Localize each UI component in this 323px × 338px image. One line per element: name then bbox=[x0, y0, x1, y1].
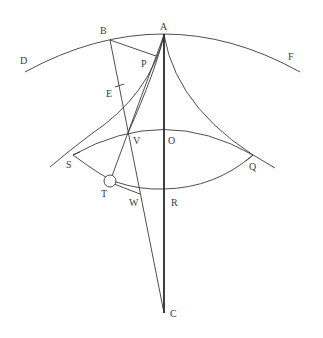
lower-arc-TR bbox=[73, 155, 253, 189]
label-V: V bbox=[133, 135, 141, 146]
label-E: E bbox=[106, 88, 112, 99]
label-R: R bbox=[171, 197, 178, 208]
line-BP bbox=[110, 40, 156, 56]
label-Q: Q bbox=[249, 161, 257, 172]
label-C: C bbox=[170, 308, 177, 319]
label-W: W bbox=[129, 197, 139, 208]
body-circle-T bbox=[104, 175, 116, 187]
cusp-curve-left-outer bbox=[50, 35, 164, 167]
label-T: T bbox=[101, 188, 107, 199]
label-A: A bbox=[160, 21, 168, 32]
label-S: S bbox=[66, 159, 72, 170]
inner-arc-SQ bbox=[73, 130, 253, 156]
tick-S bbox=[73, 152, 80, 155]
cusp-curve-right bbox=[164, 35, 275, 168]
label-B: B bbox=[100, 25, 107, 36]
label-D: D bbox=[20, 55, 27, 66]
geometry-diagram: A B D F P E V O S Q T W R C bbox=[0, 0, 323, 338]
label-O: O bbox=[168, 135, 175, 146]
label-P: P bbox=[141, 58, 147, 69]
label-F: F bbox=[288, 51, 294, 62]
line-BC bbox=[110, 40, 164, 313]
line-AT bbox=[112, 35, 164, 176]
